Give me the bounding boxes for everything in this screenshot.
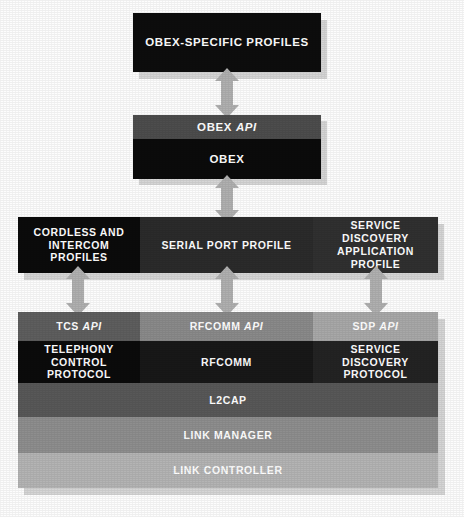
block-obex-api-label: OBEX API bbox=[193, 120, 261, 134]
block-rfcomm: RFCOMM bbox=[140, 341, 313, 383]
block-obex-label: OBEX bbox=[206, 152, 249, 166]
block-sdp-api: SDP API bbox=[313, 312, 438, 341]
block-link-manager: LINK MANAGER bbox=[18, 417, 438, 453]
block-cordless-and-intercom-profiles-label: CORDLESS AND INTERCOM PROFILES bbox=[18, 226, 140, 264]
arrow-serialport-rfcommapi bbox=[214, 266, 240, 316]
block-link-controller-label: LINK CONTROLLER bbox=[169, 464, 286, 477]
arrow-cordless-tcsapi bbox=[65, 266, 91, 316]
block-cordless-and-intercom-profiles: CORDLESS AND INTERCOM PROFILES bbox=[18, 217, 140, 273]
arrow-sdap-sdpapi bbox=[363, 266, 389, 316]
arrow-obex-serialportprofile bbox=[214, 175, 240, 223]
block-service-discovery-application-profile-label: SERVICE DISCOVERY APPLICATION PROFILE bbox=[313, 219, 438, 270]
block-l2cap-label: L2CAP bbox=[205, 394, 250, 407]
block-serial-port-profile: SERIAL PORT PROFILE bbox=[140, 217, 313, 273]
bluetooth-stack-diagram: OBEX-SPECIFIC PROFILES OBEX API OBEX COR… bbox=[0, 0, 464, 517]
block-obex-specific-profiles-label: OBEX-SPECIFIC PROFILES bbox=[141, 35, 312, 49]
block-l2cap: L2CAP bbox=[18, 383, 438, 417]
block-link-manager-label: LINK MANAGER bbox=[180, 429, 277, 442]
block-service-discovery-protocol-label: SERVICE DISCOVERY PROTOCOL bbox=[313, 343, 438, 381]
block-rfcomm-api-label: RFCOMM API bbox=[186, 320, 268, 333]
block-obex-api: OBEX API bbox=[133, 115, 321, 139]
block-tcs-api: TCS API bbox=[18, 312, 140, 341]
block-sdp-api-label: SDP API bbox=[348, 320, 402, 333]
arrow-obexprofiles-obexapi bbox=[214, 68, 240, 118]
block-tcs-api-label: TCS API bbox=[52, 320, 106, 333]
block-obex-specific-profiles: OBEX-SPECIFIC PROFILES bbox=[133, 13, 321, 72]
block-telephony-control-protocol-label: TELEPHONY CONTROL PROTOCOL bbox=[18, 343, 140, 381]
block-obex: OBEX bbox=[133, 139, 321, 179]
block-rfcomm-label: RFCOMM bbox=[197, 356, 256, 369]
block-telephony-control-protocol: TELEPHONY CONTROL PROTOCOL bbox=[18, 341, 140, 383]
block-service-discovery-protocol: SERVICE DISCOVERY PROTOCOL bbox=[313, 341, 438, 383]
block-link-controller: LINK CONTROLLER bbox=[18, 453, 438, 488]
block-rfcomm-api: RFCOMM API bbox=[140, 312, 313, 341]
block-service-discovery-application-profile: SERVICE DISCOVERY APPLICATION PROFILE bbox=[313, 217, 438, 273]
block-serial-port-profile-label: SERIAL PORT PROFILE bbox=[157, 239, 295, 252]
